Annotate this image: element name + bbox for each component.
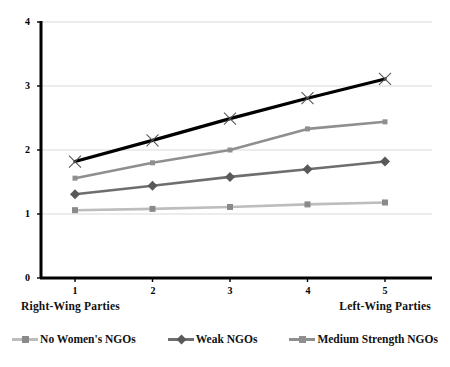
data-series	[70, 157, 390, 200]
legend-item-label: Weak NGOs	[196, 333, 258, 345]
data-point-marker	[382, 199, 388, 205]
legend-item[interactable]: Weak NGOs	[168, 333, 258, 345]
chart-container: 4 3 2 1 0 1 2 3 4 5 Right-Wing Parties L…	[0, 0, 450, 367]
x-axis-tick-label: 1	[67, 286, 83, 296]
data-point-marker	[383, 119, 388, 124]
legend-item[interactable]: No Women's NGOs	[12, 333, 136, 345]
data-point-marker	[150, 160, 155, 165]
data-point-marker	[72, 207, 78, 213]
data-series	[69, 73, 391, 168]
y-axis-tick-label: 2	[14, 145, 30, 155]
legend-swatch-icon	[12, 334, 38, 345]
y-axis-tick-label: 4	[14, 17, 30, 27]
data-point-marker	[73, 176, 78, 181]
chart-legend: No Women's NGOs Weak NGOs Medium Strengt…	[0, 333, 450, 345]
data-point-marker	[303, 164, 313, 174]
data-point-marker	[70, 189, 80, 199]
data-series	[72, 199, 388, 213]
data-point-marker	[227, 204, 233, 210]
y-axis-tick-label: 1	[14, 209, 30, 219]
right-axis-caption: Left-Wing Parties	[339, 300, 431, 312]
legend-item-label: Medium Strength NGOs	[317, 333, 438, 345]
y-axis-tick-label: 0	[14, 273, 30, 283]
x-axis-tick-label: 3	[222, 286, 238, 296]
legend-item-label: No Women's NGOs	[40, 333, 136, 345]
data-point-marker	[380, 157, 390, 167]
data-point-marker	[228, 148, 233, 153]
x-axis-tick-label: 2	[145, 286, 161, 296]
data-point-marker	[150, 206, 156, 212]
x-axis-tick-label: 5	[377, 286, 393, 296]
x-axis-tick-label: 4	[300, 286, 316, 296]
legend-item[interactable]: Medium Strength NGOs	[289, 333, 438, 345]
data-point-marker	[225, 172, 235, 182]
legend-swatch-icon	[168, 334, 194, 345]
left-axis-caption: Right-Wing Parties	[21, 300, 120, 312]
y-axis-tick-label: 3	[14, 81, 30, 91]
data-point-marker	[305, 126, 310, 131]
legend-swatch-icon	[289, 334, 315, 345]
data-point-marker	[148, 181, 158, 191]
data-point-marker	[305, 201, 311, 207]
